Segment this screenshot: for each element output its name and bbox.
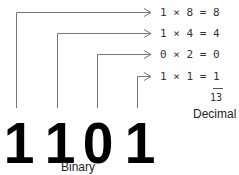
binary-digit-1: 1 bbox=[4, 114, 35, 172]
binary-to-decimal-diagram: 1 × 8 = 8 1 × 4 = 4 0 × 2 = 0 1 × 1 = 1 … bbox=[0, 0, 239, 175]
binary-label: Binary bbox=[61, 160, 95, 174]
arrow-bit-8 bbox=[17, 13, 151, 109]
binary-digit-4: 1 bbox=[125, 114, 156, 172]
arrow-bit-4 bbox=[58, 34, 151, 109]
arrow-bit-1 bbox=[138, 77, 151, 109]
decimal-label: Decimal bbox=[193, 107, 236, 121]
equation-row-1: 1 × 8 = 8 bbox=[160, 7, 220, 19]
sum-underline bbox=[213, 88, 223, 89]
arrow-bit-2 bbox=[98, 55, 151, 109]
equation-row-4: 1 × 1 = 1 bbox=[160, 71, 220, 83]
equation-row-2: 1 × 4 = 4 bbox=[160, 28, 220, 40]
decimal-sum: 13 bbox=[210, 92, 222, 103]
equation-row-3: 0 × 2 = 0 bbox=[160, 49, 220, 61]
